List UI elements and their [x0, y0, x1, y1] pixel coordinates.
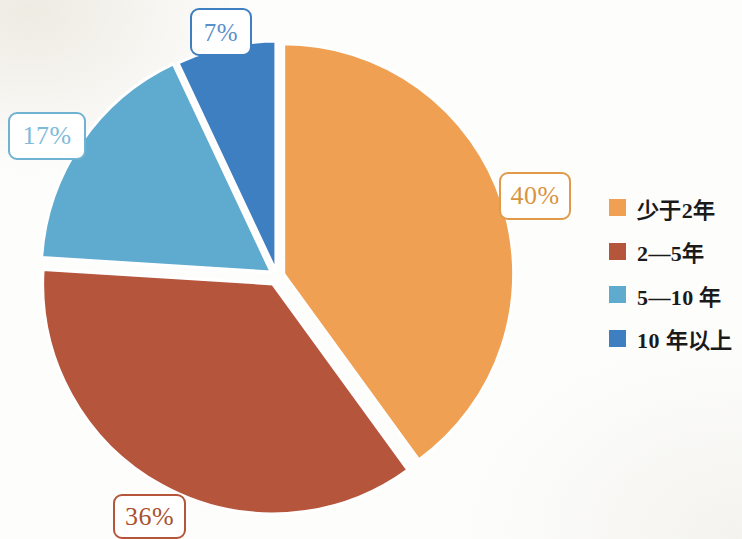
chart-legend: 少于2年 2—5年 5—10 年 10 年以上: [609, 186, 742, 360]
pie-slice-group: [42, 41, 514, 514]
legend-color-swatch-icon: [609, 286, 626, 303]
pie-data-label-text: 17%: [22, 123, 71, 149]
legend-item-label: 5—10 年: [637, 279, 722, 311]
pie-data-label-text: 7%: [204, 20, 238, 45]
pie-chart-figure: 40% 36% 17% 7% 少于2年 2—5年 5—10 年 10 年以上: [0, 0, 742, 539]
legend-color-swatch-icon: [609, 330, 626, 347]
pie-data-label-text: 40%: [510, 183, 559, 209]
pie-data-label-10年以上: 7%: [190, 8, 252, 56]
legend-color-swatch-icon: [609, 243, 626, 260]
pie-data-label-少于2年: 40%: [499, 172, 571, 220]
pie-data-label-5-10年: 17%: [8, 112, 86, 160]
legend-item-2-5年[interactable]: 2—5年: [609, 230, 742, 274]
legend-item-5-10年[interactable]: 5—10 年: [609, 273, 742, 317]
pie-data-label-text: 36%: [125, 504, 174, 530]
legend-item-label: 2—5年: [637, 235, 705, 267]
legend-item-label: 少于2年: [637, 192, 716, 224]
pie-data-label-2-5年: 36%: [113, 494, 186, 539]
legend-item-label: 10 年以上: [637, 322, 733, 354]
legend-item-10年以上[interactable]: 10 年以上: [609, 317, 742, 361]
legend-item-少于2年[interactable]: 少于2年: [609, 186, 742, 230]
legend-color-swatch-icon: [609, 199, 626, 216]
